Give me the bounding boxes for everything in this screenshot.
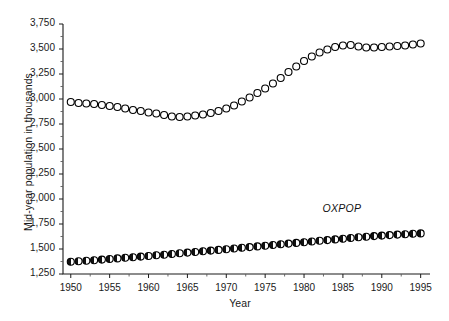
data-point xyxy=(207,247,214,254)
data-point xyxy=(114,104,121,111)
data-point xyxy=(168,113,175,120)
data-point xyxy=(324,237,331,244)
data-point xyxy=(417,40,424,47)
data-point xyxy=(355,234,362,241)
data-point xyxy=(339,42,346,49)
data-point xyxy=(83,100,90,107)
data-point xyxy=(98,102,105,109)
data-point xyxy=(409,41,416,48)
data-point xyxy=(98,256,105,263)
data-point xyxy=(176,250,183,257)
data-point xyxy=(301,239,308,246)
data-point xyxy=(386,232,393,239)
data-point xyxy=(199,248,206,255)
data-point xyxy=(176,114,183,121)
series-upper-open-circles xyxy=(67,40,424,121)
data-point xyxy=(262,242,269,249)
data-point xyxy=(122,254,129,261)
data-point xyxy=(91,101,98,108)
data-point xyxy=(316,237,323,244)
data-point xyxy=(122,105,129,112)
data-point xyxy=(91,257,98,264)
data-point xyxy=(285,69,292,76)
data-point xyxy=(308,238,315,245)
data-point xyxy=(332,44,339,51)
data-point xyxy=(378,232,385,239)
data-point xyxy=(409,230,416,237)
data-point xyxy=(192,249,199,256)
data-point xyxy=(277,75,284,82)
data-point xyxy=(223,105,230,112)
data-point xyxy=(238,98,245,105)
data-point xyxy=(184,113,191,120)
data-point xyxy=(106,256,113,263)
data-point xyxy=(192,112,199,119)
data-point xyxy=(394,43,401,50)
data-point xyxy=(207,110,214,117)
data-point xyxy=(402,231,409,238)
data-point xyxy=(254,90,261,97)
data-point xyxy=(106,103,113,110)
data-point xyxy=(223,246,230,253)
plot-area xyxy=(0,0,449,321)
data-point xyxy=(231,245,238,252)
data-point xyxy=(246,244,253,251)
data-point xyxy=(269,242,276,249)
data-point xyxy=(231,102,238,109)
data-point xyxy=(363,233,370,240)
data-point xyxy=(199,111,206,118)
data-point xyxy=(308,53,315,60)
data-point xyxy=(324,46,331,53)
data-point xyxy=(378,44,385,51)
data-point xyxy=(161,251,168,258)
data-point xyxy=(269,80,276,87)
data-point xyxy=(168,251,175,258)
data-point xyxy=(293,239,300,246)
data-point xyxy=(184,249,191,256)
data-point xyxy=(301,58,308,65)
data-point xyxy=(129,254,136,261)
data-point xyxy=(238,244,245,251)
data-point xyxy=(153,110,160,117)
data-point xyxy=(402,42,409,49)
data-point xyxy=(363,44,370,51)
data-point xyxy=(114,255,121,262)
data-point xyxy=(145,253,152,260)
data-point xyxy=(293,63,300,70)
data-point xyxy=(386,43,393,50)
data-point xyxy=(417,230,424,237)
data-point xyxy=(277,241,284,248)
data-point xyxy=(285,240,292,247)
data-point xyxy=(262,85,269,92)
series-OXPOP xyxy=(67,230,424,265)
data-point xyxy=(137,253,144,260)
data-point xyxy=(83,257,90,264)
data-point xyxy=(347,42,354,49)
data-point xyxy=(161,112,168,119)
data-point xyxy=(355,43,362,50)
data-point xyxy=(316,49,323,56)
data-point xyxy=(254,243,261,250)
data-point xyxy=(67,258,74,265)
data-point xyxy=(75,258,82,265)
data-point xyxy=(153,252,160,259)
data-point xyxy=(371,44,378,51)
data-point xyxy=(215,246,222,253)
data-point xyxy=(137,108,144,115)
data-point xyxy=(394,231,401,238)
data-point xyxy=(129,107,136,114)
data-point xyxy=(347,235,354,242)
population-scatter-chart: Mid-year population in thousands Year OX… xyxy=(0,0,449,321)
data-point xyxy=(339,235,346,242)
data-point xyxy=(215,108,222,115)
data-point xyxy=(75,100,82,107)
data-point xyxy=(67,99,74,106)
data-point xyxy=(145,109,152,116)
data-point xyxy=(371,233,378,240)
data-point xyxy=(332,236,339,243)
data-point xyxy=(246,94,253,101)
